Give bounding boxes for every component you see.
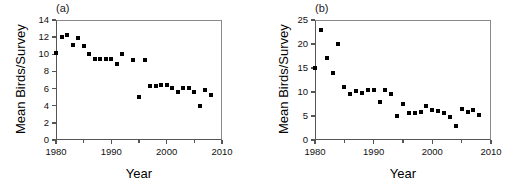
panel-b-y-tick-label: 0 <box>275 135 308 145</box>
data-point <box>54 51 58 55</box>
panel-a-y-tick-mark <box>52 88 56 89</box>
data-point <box>471 108 475 112</box>
data-point <box>76 36 80 40</box>
data-point <box>366 88 370 92</box>
panel-a-x-minor-tick-mark <box>194 140 195 143</box>
panel-b-x-axis-title: Year <box>315 167 491 180</box>
data-point <box>93 57 97 61</box>
data-point <box>419 110 423 114</box>
panel-b-x-minor-tick-mark <box>344 140 345 143</box>
data-point <box>82 44 86 48</box>
panel-b-y-tick-label: 15 <box>275 63 308 73</box>
data-point <box>460 107 464 111</box>
panel-a-x-minor-tick-mark <box>83 140 84 143</box>
panel-b-y-tick-label: 25 <box>275 15 308 25</box>
panel-b-plot-area <box>315 20 491 140</box>
data-point <box>348 92 352 96</box>
data-point <box>383 88 387 92</box>
panel-a-plot-area <box>56 20 222 140</box>
data-point <box>407 111 411 115</box>
panel-a-x-tick-label: 2000 <box>147 147 187 157</box>
panel-b-y-tick-mark <box>311 43 315 44</box>
data-point <box>115 62 119 66</box>
data-point <box>342 85 346 89</box>
data-point <box>313 66 317 70</box>
panel-a-y-tick-label: 6 <box>16 84 49 94</box>
data-point <box>430 108 434 112</box>
panel-b-y-tick-mark <box>311 91 315 92</box>
data-point <box>71 43 75 47</box>
data-point <box>319 28 323 32</box>
data-point <box>436 109 440 113</box>
data-point <box>98 57 102 61</box>
data-point <box>109 57 113 61</box>
data-point <box>401 102 405 106</box>
panel-b-x-minor-tick-mark <box>461 140 462 143</box>
data-point <box>159 83 163 87</box>
panel-a-x-tick-mark <box>221 140 222 144</box>
data-point <box>181 86 185 90</box>
data-point <box>209 93 213 97</box>
data-point <box>104 57 108 61</box>
panel-a-y-tick-label: 2 <box>16 118 49 128</box>
panel-b-x-tick-mark <box>314 140 315 144</box>
data-point <box>65 33 69 37</box>
data-point <box>413 111 417 115</box>
panel-b-y-tick-mark <box>311 19 315 20</box>
panel-b-x-minor-tick-mark <box>402 140 403 143</box>
data-point <box>424 104 428 108</box>
data-point <box>395 114 399 118</box>
data-point <box>170 86 174 90</box>
panel-a-x-axis-title: Year <box>56 167 222 180</box>
data-point <box>176 90 180 94</box>
panel-a: (a) Mean Birds/Survey Year 0246810121419… <box>0 0 265 186</box>
data-point <box>477 113 481 117</box>
panel-a-x-tick-mark <box>111 140 112 144</box>
panel-a-y-tick-label: 0 <box>16 135 49 145</box>
data-point <box>336 42 340 46</box>
panel-a-y-tick-mark <box>52 19 56 20</box>
panel-a-y-tick-label: 4 <box>16 101 49 111</box>
data-point <box>331 71 335 75</box>
panel-a-x-tick-mark <box>55 140 56 144</box>
panel-a-y-tick-mark <box>52 122 56 123</box>
panel-a-label: (a) <box>56 3 69 14</box>
panel-b-x-tick-label: 2000 <box>412 147 452 157</box>
data-point <box>325 56 329 60</box>
panel-a-x-tick-label: 1980 <box>36 147 76 157</box>
panel-a-x-tick-label: 1990 <box>91 147 131 157</box>
figure-two-panel-scatter: (a) Mean Birds/Survey Year 0246810121419… <box>0 0 530 186</box>
panel-b-y-tick-mark <box>311 115 315 116</box>
panel-a-x-minor-tick-mark <box>138 140 139 143</box>
panel-b-y-tick-label: 5 <box>275 111 308 121</box>
panel-b-x-tick-label: 1990 <box>354 147 394 157</box>
panel-b-x-tick-mark <box>432 140 433 144</box>
data-point <box>131 58 135 62</box>
data-point <box>372 88 376 92</box>
panel-a-y-tick-mark <box>52 36 56 37</box>
panel-a-x-tick-label: 2010 <box>202 147 242 157</box>
data-point <box>389 92 393 96</box>
panel-b-y-tick-label: 10 <box>275 87 308 97</box>
data-point <box>466 110 470 114</box>
data-point <box>192 90 196 94</box>
panel-a-y-tick-mark <box>52 71 56 72</box>
panel-a-y-tick-label: 10 <box>16 49 49 59</box>
data-point <box>87 52 91 56</box>
panel-b: (b) Mean Birds/Survey Year 0510152025198… <box>265 0 530 186</box>
data-point <box>137 95 141 99</box>
data-point <box>154 84 158 88</box>
data-point <box>454 124 458 128</box>
data-point <box>442 111 446 115</box>
data-point <box>198 104 202 108</box>
data-point <box>148 84 152 88</box>
panel-b-y-tick-label: 20 <box>275 39 308 49</box>
panel-b-x-tick-mark <box>373 140 374 144</box>
data-point <box>203 88 207 92</box>
data-point <box>448 115 452 119</box>
data-point <box>165 83 169 87</box>
data-point <box>143 58 147 62</box>
panel-a-y-tick-label: 12 <box>16 32 49 42</box>
panel-a-y-tick-label: 14 <box>16 15 49 25</box>
data-point <box>60 35 64 39</box>
